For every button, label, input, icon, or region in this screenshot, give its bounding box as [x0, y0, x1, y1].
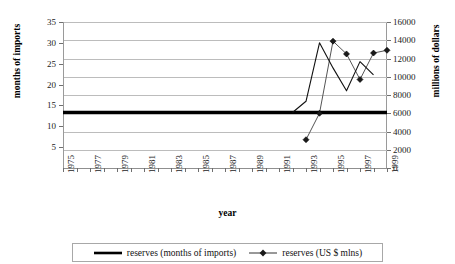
- gridline: [64, 95, 388, 96]
- thick-line-swatch-icon: [93, 248, 123, 258]
- y-axis-label-right: 16000: [393, 18, 416, 27]
- x-axis-title: year: [0, 208, 455, 218]
- gridline: [64, 77, 388, 78]
- y-axis-label-left: 15: [47, 101, 56, 110]
- legend-item-months[interactable]: reserves (months of imports): [93, 248, 237, 258]
- y-axis-title-left: months of imports: [12, 6, 22, 116]
- chart-legend: reserves (months of imports) reserves (U…: [72, 243, 383, 262]
- diamond-line-swatch-icon: [248, 248, 278, 258]
- x-axis-tick: [104, 168, 105, 172]
- x-axis-tick: [171, 168, 172, 172]
- y-axis-label-left: 5: [52, 143, 57, 152]
- x-axis-label: 1981: [148, 155, 157, 173]
- x-axis-tick: [198, 168, 199, 172]
- x-axis-tick: [144, 168, 145, 172]
- y-axis-tick-right: [387, 132, 391, 133]
- gridline: [64, 113, 388, 114]
- y-axis-tick-left: [59, 43, 63, 44]
- y-axis-tick-right: [387, 40, 391, 41]
- gridline: [64, 22, 388, 23]
- y-axis-label-right: 2000: [393, 146, 411, 155]
- x-axis-tick: [225, 168, 226, 172]
- y-axis-label-right: 6000: [393, 109, 411, 118]
- x-axis-tick: [374, 168, 375, 172]
- x-axis-label: 1977: [94, 155, 103, 173]
- y-axis-label-left: 20: [47, 81, 56, 90]
- x-axis-tick: [252, 168, 253, 172]
- y-axis-tick-right: [387, 59, 391, 60]
- legend-label-usd: reserves (US $ mlns): [282, 248, 362, 258]
- x-axis-tick: [360, 168, 361, 172]
- x-axis-label: 1975: [67, 155, 76, 173]
- chart-container: months of imports millions of dollars ye…: [0, 0, 455, 264]
- y-axis-tick-left: [59, 22, 63, 23]
- x-axis-tick: [266, 168, 267, 172]
- x-axis-label: 1989: [256, 155, 265, 173]
- x-axis-tick: [117, 168, 118, 172]
- x-axis-label: 1997: [364, 155, 373, 173]
- x-axis-tick: [212, 168, 213, 172]
- x-axis-tick: [131, 168, 132, 172]
- y-axis-label-left: 10: [47, 122, 56, 131]
- x-axis-label: 1987: [229, 155, 238, 173]
- y-axis-tick-right: [387, 113, 391, 114]
- x-axis-label: 1991: [283, 155, 292, 173]
- y-axis-label-right: 14000: [393, 36, 416, 45]
- x-axis-tick: [279, 168, 280, 172]
- y-axis-label-right: 12000: [393, 55, 416, 64]
- x-axis-tick: [185, 168, 186, 172]
- plot-area: [63, 22, 387, 168]
- x-axis-tick: [320, 168, 321, 172]
- gridline: [64, 132, 388, 133]
- x-axis-tick: [90, 168, 91, 172]
- y-axis-tick-right: [387, 95, 391, 96]
- x-axis-tick: [347, 168, 348, 172]
- y-axis-label-right: 10000: [393, 73, 416, 82]
- legend-label-months: reserves (months of imports): [127, 248, 237, 258]
- x-axis-tick: [387, 168, 388, 172]
- gridline: [64, 150, 388, 151]
- x-axis-label: 1983: [175, 155, 184, 173]
- y-axis-tick-right: [387, 150, 391, 151]
- x-axis-tick: [293, 168, 294, 172]
- y-axis-label-left: 35: [47, 18, 56, 27]
- x-axis-label: 1985: [202, 155, 211, 173]
- x-axis-tick: [158, 168, 159, 172]
- y-axis-tick-right: [387, 77, 391, 78]
- x-axis-label: 1999: [391, 155, 400, 173]
- y-axis-label-left: 30: [47, 39, 56, 48]
- y-axis-label-left: 25: [47, 60, 56, 69]
- x-axis-tick: [306, 168, 307, 172]
- gridline: [64, 59, 388, 60]
- y-axis-label-right: 4000: [393, 128, 411, 137]
- x-axis-label: 1979: [121, 155, 130, 173]
- legend-item-usd[interactable]: reserves (US $ mlns): [248, 248, 362, 258]
- x-axis-tick: [239, 168, 240, 172]
- gridline: [64, 40, 388, 41]
- y-axis-label-right: 8000: [393, 91, 411, 100]
- x-axis-label: 1993: [310, 155, 319, 173]
- x-axis-tick: [333, 168, 334, 172]
- y-axis-tick-left: [59, 64, 63, 65]
- y-axis-tick-left: [59, 105, 63, 106]
- y-axis-title-right: millions of dollars: [431, 6, 441, 116]
- x-axis-label: 1995: [337, 155, 346, 173]
- x-axis-tick: [63, 168, 64, 172]
- y-axis-tick-left: [59, 147, 63, 148]
- y-axis-tick-left: [59, 126, 63, 127]
- y-axis-tick-right: [387, 22, 391, 23]
- y-axis-tick-left: [59, 85, 63, 86]
- x-axis-tick: [77, 168, 78, 172]
